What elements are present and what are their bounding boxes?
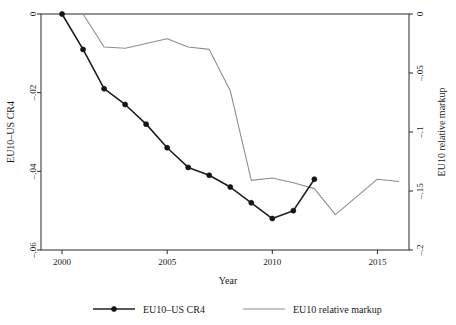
y-right-tick-label: –.2	[415, 244, 425, 256]
y-right-tick-label: –.05	[415, 65, 425, 82]
y-right-tick-label: 0	[415, 11, 425, 16]
data-point-marker	[144, 122, 149, 127]
data-point-marker	[249, 200, 254, 205]
y-axis-left-title: EU10–US CR4	[5, 101, 16, 163]
chart-figure: 2000200520102015 0–.02–.04–.06 0–.05–.1–…	[0, 0, 456, 325]
data-point-marker	[186, 165, 191, 170]
data-point-marker	[207, 173, 212, 178]
y-right-tick-label: –.1	[415, 126, 425, 138]
y-left-tick-label: –.06	[28, 242, 38, 259]
data-point-marker	[291, 208, 296, 213]
x-tick-label: 2005	[158, 257, 177, 267]
data-point-marker	[81, 47, 86, 52]
y-left-tick-label: –.04	[28, 163, 38, 180]
legend-item-label: EU10 relative markup	[293, 304, 382, 315]
data-point-marker	[165, 145, 170, 150]
line-chart: 2000200520102015 0–.02–.04–.06 0–.05–.1–…	[0, 0, 456, 325]
y-right-tick-label: –.15	[415, 183, 425, 200]
data-point-marker	[123, 102, 128, 107]
data-point-marker	[102, 86, 107, 91]
data-point-marker	[228, 185, 233, 190]
data-point-marker	[270, 216, 275, 221]
x-axis-title: Year	[219, 275, 238, 286]
x-tick-label: 2015	[368, 257, 387, 267]
y-left-tick-label: –.02	[28, 85, 38, 102]
data-point-marker	[60, 12, 65, 17]
y-axis-right-title: EU10 relative markup	[436, 88, 447, 177]
legend-swatch-marker	[112, 307, 117, 312]
x-tick-label: 2010	[263, 257, 282, 267]
data-point-marker	[312, 177, 317, 182]
legend-item-label: EU10–US CR4	[143, 304, 205, 315]
y-left-tick-label: 0	[28, 11, 38, 16]
x-tick-label: 2000	[53, 257, 72, 267]
